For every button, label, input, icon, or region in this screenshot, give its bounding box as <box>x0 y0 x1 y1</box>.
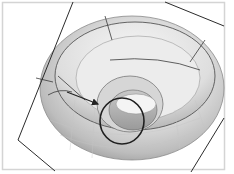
figure-canvas <box>0 0 234 174</box>
torus-plane-illustration <box>0 0 234 174</box>
